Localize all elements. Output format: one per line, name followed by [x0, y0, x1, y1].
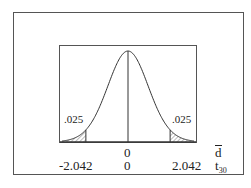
- t-axis-subscript: 30: [219, 166, 227, 175]
- left-tail-label: .025: [64, 114, 83, 125]
- dbar-axis-label: d: [215, 145, 222, 159]
- t-neg-tick: -2.042: [59, 159, 93, 172]
- right-tail-label: .025: [172, 114, 191, 125]
- t-axis-label: t30: [215, 159, 227, 177]
- t-pos-tick: 2.042: [172, 159, 201, 172]
- t-zero-tick: 0: [124, 159, 131, 172]
